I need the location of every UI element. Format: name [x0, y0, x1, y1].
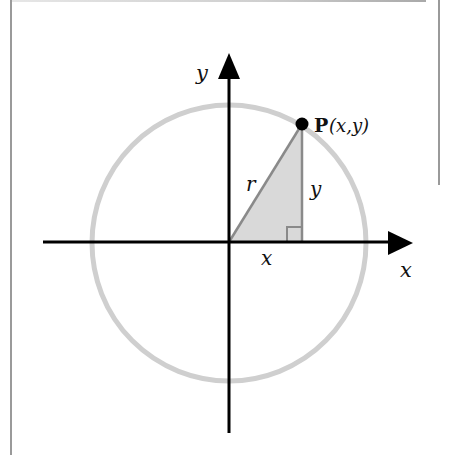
horizontal-leg-label: x: [261, 246, 272, 270]
point-p-coords: (x,y): [329, 115, 369, 136]
unit-circle-diagram: y x P (x,y) r y x: [0, 0, 449, 455]
x-axis-label: x: [400, 258, 412, 282]
vertical-leg-label: y: [309, 177, 322, 201]
y-axis-arrow-icon: [218, 53, 240, 79]
x-axis-arrow-icon: [388, 231, 413, 255]
point-p: [296, 118, 309, 131]
hypotenuse-label: r: [246, 172, 257, 196]
y-axis-label: y: [195, 61, 209, 85]
point-p-name: P: [314, 114, 328, 136]
